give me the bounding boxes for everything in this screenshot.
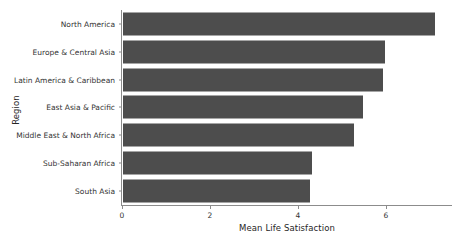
- x-tick-label: 6: [384, 211, 389, 220]
- y-tick-mark: [119, 107, 122, 108]
- y-tick-label: North America: [61, 19, 115, 28]
- y-tick-mark: [119, 51, 122, 52]
- bar: [123, 180, 310, 203]
- y-axis-label: Region: [11, 95, 21, 125]
- bar: [123, 124, 354, 147]
- bar-band: South Asia: [122, 177, 452, 205]
- y-tick-mark: [119, 163, 122, 164]
- y-tick-label: Sub-Saharan Africa: [43, 159, 115, 168]
- x-tick-mark: [122, 205, 123, 209]
- y-tick-mark: [119, 23, 122, 24]
- bar-band: North America: [122, 10, 452, 38]
- y-tick-mark: [119, 79, 122, 80]
- bar-band: Middle East & North Africa: [122, 121, 452, 149]
- x-axis-line: [121, 205, 452, 206]
- x-tick-mark: [298, 205, 299, 209]
- x-axis-label: Mean Life Satisfaction: [239, 223, 335, 233]
- y-tick-mark: [119, 135, 122, 136]
- x-tick-mark: [386, 205, 387, 209]
- y-tick-label: East Asia & Pacific: [46, 103, 115, 112]
- bar: [123, 40, 385, 63]
- y-tick-label: Latin America & Caribbean: [14, 75, 115, 84]
- y-tick-mark: [119, 191, 122, 192]
- y-tick-label: Europe & Central Asia: [33, 47, 115, 56]
- bar: [123, 96, 363, 119]
- bar-band: Latin America & Caribbean: [122, 66, 452, 94]
- x-tick-label: 0: [120, 211, 125, 220]
- y-tick-label: Middle East & North Africa: [16, 131, 115, 140]
- x-tick-label: 2: [208, 211, 213, 220]
- x-tick-mark: [210, 205, 211, 209]
- bar-chart-figure: Region Mean Life Satisfaction North Amer…: [0, 0, 461, 239]
- bar-band: East Asia & Pacific: [122, 94, 452, 122]
- bar-band: Sub-Saharan Africa: [122, 149, 452, 177]
- bar: [123, 68, 383, 91]
- x-tick-label: 4: [296, 211, 301, 220]
- y-tick-label: South Asia: [75, 187, 115, 196]
- bar: [123, 12, 435, 35]
- bar-band: Europe & Central Asia: [122, 38, 452, 66]
- plot-area: North AmericaEurope & Central AsiaLatin …: [122, 10, 452, 205]
- bar: [123, 152, 312, 175]
